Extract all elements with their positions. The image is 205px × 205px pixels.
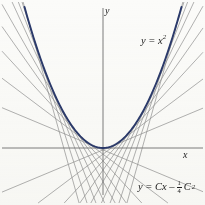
x-axis-label: x <box>183 150 187 160</box>
fraction-denominator: 4 <box>177 187 182 195</box>
fraction-numerator: 1 <box>177 180 182 187</box>
one-quarter-fraction: 1 4 <box>177 180 182 195</box>
parabola-equation-exponent: 2 <box>163 33 167 41</box>
parabola-tangent-family-figure <box>0 0 205 205</box>
family-equation-exponent: 2 <box>192 184 196 191</box>
parabola-equation-label: y = x2 <box>141 34 166 46</box>
y-axis-label: y <box>105 6 109 16</box>
family-equation-suffix: C <box>184 182 191 193</box>
parabola-equation-base: y = x <box>141 35 163 46</box>
tangent-family-equation-label: y = Cx – 1 4 C2 <box>138 180 195 195</box>
family-equation-prefix: y = Cx – <box>138 182 175 193</box>
